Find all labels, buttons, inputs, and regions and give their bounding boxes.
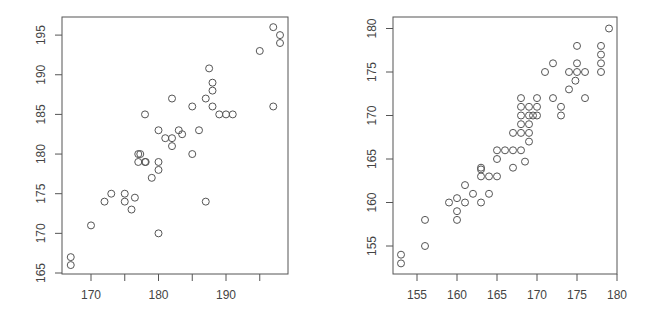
data-point	[574, 42, 581, 49]
y-tick-label: 170	[34, 223, 48, 243]
data-point	[209, 79, 216, 86]
data-point	[582, 69, 589, 76]
data-point	[131, 194, 138, 201]
data-point	[494, 156, 501, 163]
data-point	[478, 173, 485, 180]
data-point	[598, 42, 605, 49]
scatter-plots: 170180190165170175180185190195 155160165…	[0, 0, 651, 326]
data-point	[494, 173, 501, 180]
data-point	[526, 121, 533, 128]
data-point	[598, 60, 605, 67]
y-tick-label: 155	[365, 236, 379, 256]
data-point	[574, 60, 581, 67]
x-tick-label: 155	[407, 288, 427, 302]
data-point	[510, 129, 517, 136]
data-point	[270, 24, 277, 31]
data-point	[486, 173, 493, 180]
data-point	[446, 199, 453, 206]
data-point	[202, 95, 209, 102]
scatter-plot-right: 155160165170175180155160165170175180	[365, 17, 627, 302]
data-point	[542, 69, 549, 76]
data-point	[155, 127, 162, 134]
data-point	[128, 206, 135, 213]
x-tick-label: 160	[447, 288, 467, 302]
data-point	[229, 111, 236, 118]
data-point	[510, 164, 517, 171]
data-point	[534, 95, 541, 102]
data-point	[462, 182, 469, 189]
data-point	[566, 69, 573, 76]
plot-frame	[393, 17, 617, 274]
data-point	[598, 51, 605, 58]
data-point	[470, 190, 477, 197]
data-point	[216, 111, 223, 118]
data-point	[558, 112, 565, 119]
y-tick-label: 180	[365, 18, 379, 38]
data-point	[169, 95, 176, 102]
y-tick-label: 175	[365, 62, 379, 82]
x-tick-label: 190	[216, 288, 236, 302]
data-point	[88, 222, 95, 229]
y-tick-label: 160	[365, 192, 379, 212]
data-point	[526, 129, 533, 136]
data-point	[502, 147, 509, 154]
data-point	[169, 143, 176, 150]
data-point	[398, 260, 405, 267]
y-tick-label: 190	[34, 64, 48, 84]
data-point	[108, 190, 115, 197]
data-point	[121, 190, 128, 197]
x-tick-label: 180	[148, 288, 168, 302]
data-point	[582, 95, 589, 102]
data-point	[550, 60, 557, 67]
data-point	[277, 32, 284, 39]
x-tick-label: 165	[487, 288, 507, 302]
data-point	[454, 195, 461, 202]
data-point	[67, 262, 74, 269]
data-point	[155, 158, 162, 165]
data-point	[169, 135, 176, 142]
data-point	[518, 121, 525, 128]
data-point	[202, 198, 209, 205]
data-point	[277, 40, 284, 47]
data-point	[121, 198, 128, 205]
data-point	[155, 166, 162, 173]
x-tick-label: 170	[527, 288, 547, 302]
data-point	[526, 138, 533, 145]
y-tick-label: 170	[365, 105, 379, 125]
y-tick-label: 165	[365, 149, 379, 169]
data-point	[478, 199, 485, 206]
data-point	[206, 65, 213, 72]
data-point	[454, 208, 461, 215]
data-point	[223, 111, 230, 118]
data-point	[518, 95, 525, 102]
data-point	[270, 103, 277, 110]
y-tick-label: 180	[34, 144, 48, 164]
x-tick-label: 175	[567, 288, 587, 302]
data-point	[518, 103, 525, 110]
y-tick-label: 185	[34, 104, 48, 124]
data-point	[422, 216, 429, 223]
data-point	[606, 25, 613, 32]
data-point	[454, 216, 461, 223]
data-point	[534, 103, 541, 110]
data-point	[558, 103, 565, 110]
data-point	[148, 174, 155, 181]
y-tick-label: 195	[34, 25, 48, 45]
data-point	[486, 190, 493, 197]
data-point	[526, 103, 533, 110]
y-tick-label: 175	[34, 183, 48, 203]
data-point	[566, 86, 573, 93]
y-tick-label: 165	[34, 263, 48, 283]
data-point	[518, 112, 525, 119]
data-point	[518, 147, 525, 154]
data-point	[518, 129, 525, 136]
scatter-plot-left: 170180190165170175180185190195	[34, 17, 288, 302]
data-point	[462, 199, 469, 206]
data-point	[209, 87, 216, 94]
data-point	[256, 47, 263, 54]
data-point	[522, 158, 529, 165]
data-point	[142, 111, 149, 118]
data-point	[67, 254, 74, 261]
data-point	[510, 147, 517, 154]
data-point	[550, 95, 557, 102]
